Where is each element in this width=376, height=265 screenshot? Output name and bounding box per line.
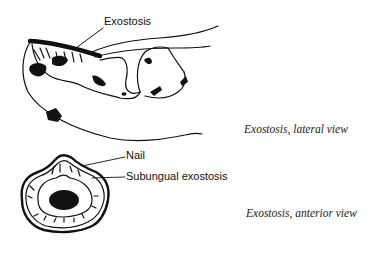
subungual-exostosis-label: Subungual exostosis <box>126 171 228 182</box>
anterior-view-caption: Exostosis, anterior view <box>246 208 357 220</box>
lateral-view-caption: Exostosis, lateral view <box>244 124 348 136</box>
diagram-canvas: Exostosis Nail Subungual exostosis Exost… <box>0 0 376 265</box>
exostosis-leader-line <box>76 28 103 48</box>
nail-label: Nail <box>126 150 145 161</box>
exostosis-label: Exostosis <box>104 16 151 27</box>
